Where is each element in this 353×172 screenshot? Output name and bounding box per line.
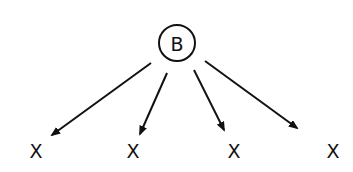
root-node-label: B bbox=[170, 33, 183, 55]
leaf-node-1: X bbox=[29, 140, 42, 162]
edges-group bbox=[52, 61, 297, 135]
leaf-node-3: X bbox=[227, 140, 240, 162]
edge-arrow-1 bbox=[52, 63, 151, 135]
leaf-node-2: X bbox=[126, 140, 139, 162]
root-node: B bbox=[159, 25, 195, 61]
tree-diagram: B XXXX bbox=[0, 0, 353, 172]
diagram-svg: B XXXX bbox=[0, 0, 353, 172]
edge-arrow-3 bbox=[194, 70, 224, 130]
leaf-nodes: XXXX bbox=[29, 140, 339, 162]
leaf-node-4: X bbox=[326, 140, 339, 162]
edge-arrow-2 bbox=[140, 73, 167, 134]
